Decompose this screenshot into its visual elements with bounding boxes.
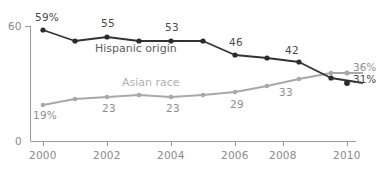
series-label-hispanic-origin: Hispanic origin — [95, 43, 177, 54]
line-chart: 60 0 2000 2002 2004 2006 2008 2010 59% 5… — [0, 0, 379, 171]
x-axis-label-2006: 2006 — [221, 150, 249, 161]
data-label-hispanic-2006: 46 — [229, 37, 243, 48]
data-label-asian-2006: 29 — [230, 99, 244, 110]
x-axis-label-2002: 2002 — [93, 150, 121, 161]
x-axis-label-2000: 2000 — [29, 150, 57, 161]
y-axis-label-0: 0 — [15, 136, 22, 147]
data-label-asian-2002: 23 — [102, 103, 116, 114]
end-label-hispanic-origin: 31% — [353, 74, 376, 85]
data-label-hispanic-2002: 55 — [101, 18, 115, 29]
data-label-asian-2008: 33 — [279, 87, 293, 98]
data-label-hispanic-2004: 53 — [165, 22, 179, 33]
series-line-hispanic-origin — [43, 30, 363, 83]
data-label-hispanic-2008: 42 — [285, 45, 299, 56]
x-axis-ticks — [44, 142, 348, 147]
data-label-hispanic-2000: 59% — [35, 12, 59, 23]
series-label-asian-race: Asian race — [122, 77, 180, 88]
data-label-asian-2000: 19% — [33, 110, 57, 121]
chart-plot-area — [0, 0, 379, 171]
series-points-hispanic-origin — [40, 27, 350, 86]
series-points-asian-race — [41, 70, 350, 107]
x-axis-label-2004: 2004 — [157, 150, 185, 161]
end-label-asian-race: 36% — [353, 62, 376, 73]
y-axis-label-60: 60 — [8, 21, 21, 32]
x-axis-label-2008: 2008 — [269, 150, 297, 161]
x-axis-label-2010: 2010 — [333, 150, 361, 161]
series-line-asian-race — [43, 73, 363, 105]
clipped-title-strip — [0, 0, 379, 5]
data-label-asian-2004: 23 — [166, 103, 180, 114]
